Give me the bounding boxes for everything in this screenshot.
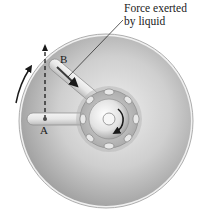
- centrifugal-disk-diagram: [0, 0, 202, 214]
- axle-hole: [103, 113, 115, 125]
- callout-line-1: Force exerted: [124, 2, 187, 15]
- point-b-label: B: [60, 53, 67, 65]
- force-callout-label: Force exerted by liquid: [124, 2, 187, 28]
- callout-line-2: by liquid: [124, 15, 187, 28]
- velocity-arrowhead: [42, 44, 48, 51]
- point-a: [43, 117, 47, 121]
- hub: [76, 86, 142, 152]
- point-a-label: A: [40, 124, 48, 136]
